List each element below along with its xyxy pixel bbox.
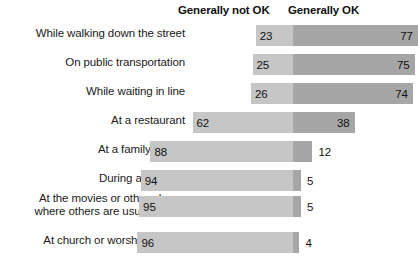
row-bar-area: 6238 [191,112,376,133]
chart-row: During a meeting945 [0,170,376,191]
row-bar-area: 8812 [191,141,376,162]
bar-value-ok: 74 [395,88,408,100]
bar-segment-ok: 12 [293,141,312,162]
row-bar-area: 945 [191,170,376,191]
bar-segment-ok: 5 [293,196,301,217]
row-category-label: At a restaurant [0,114,185,127]
bar-segment-not-ok: 95 [139,196,293,217]
bar-segment-not-ok: 96 [137,232,293,253]
bar-segment-not-ok: 94 [141,170,293,191]
bar-value-ok: 4 [305,237,311,249]
stacked-bar: 8812 [150,141,312,162]
bar-value-not-ok: 96 [141,237,154,249]
row-category-label: While waiting in line [0,85,185,98]
bar-value-not-ok: 95 [143,201,156,213]
bar-segment-not-ok: 62 [193,112,293,133]
row-bar-area: 955 [191,196,376,217]
bar-value-not-ok: 88 [154,146,167,158]
bar-value-not-ok: 26 [255,88,268,100]
stacked-bar: 2377 [256,25,418,46]
row-bar-area: 2674 [191,83,376,104]
row-bar-area: 964 [191,232,376,253]
stacked-bar: 2674 [251,83,413,104]
row-category-label: On public transportation [0,56,185,69]
chart-row: At the movies or other placeswhere other… [0,196,376,217]
header-generally-not-ok: Generally not OK [178,4,270,16]
bar-value-ok: 5 [307,175,313,187]
bar-segment-not-ok: 25 [253,54,294,75]
bar-value-ok: 75 [397,59,410,71]
row-category-label: While walking down the street [0,27,185,40]
bar-segment-ok: 5 [293,170,301,191]
row-bar-area: 2377 [191,25,376,46]
stacked-bar: 6238 [193,112,355,133]
row-bar-area: 2575 [191,54,376,75]
header-generally-ok: Generally OK [288,4,359,16]
bar-value-not-ok: 94 [145,175,158,187]
stacked-bar: 2575 [253,54,415,75]
bar-value-not-ok: 25 [257,59,270,71]
bar-value-ok: 77 [400,30,413,42]
chart-row: At a restaurant6238 [0,112,376,133]
chart-row: At a family dinner8812 [0,141,376,162]
bar-value-ok: 5 [307,201,313,213]
bar-segment-ok: 77 [293,25,418,46]
chart-row: On public transportation2575 [0,54,376,75]
stacked-bar: 964 [137,232,299,253]
bar-segment-ok: 38 [293,112,355,133]
bar-segment-ok: 74 [293,83,413,104]
bar-value-not-ok: 23 [260,30,273,42]
bar-segment-not-ok: 26 [251,83,293,104]
bar-value-ok: 12 [318,146,331,158]
stacked-bar: 955 [139,196,301,217]
bar-segment-ok: 75 [293,54,415,75]
chart-row: At church or worship service964 [0,232,376,253]
chart-row: While waiting in line2674 [0,83,376,104]
bar-segment-ok: 4 [293,232,299,253]
chart-row: While walking down the street2377 [0,25,376,46]
bar-segment-not-ok: 23 [256,25,293,46]
bar-segment-not-ok: 88 [150,141,293,162]
stacked-bar: 945 [141,170,301,191]
chart-header: Generally not OK Generally OK [0,3,376,21]
bar-value-ok: 38 [337,117,350,129]
bar-value-not-ok: 62 [197,117,210,129]
